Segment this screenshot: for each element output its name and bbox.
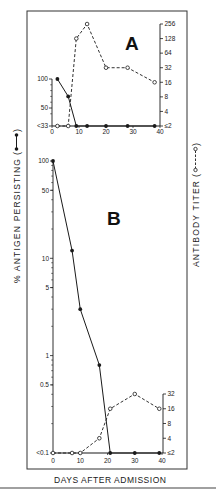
y-left-tick-label: <33	[37, 122, 48, 129]
x-tick-label: 0	[50, 128, 54, 135]
y-right-tick-label: 8	[165, 93, 169, 100]
antibody-point	[133, 392, 137, 396]
antibody-point	[126, 66, 130, 70]
x-tick-label: 40	[158, 457, 166, 464]
antigen-point	[108, 451, 112, 455]
antigen-point	[51, 159, 55, 163]
antigen-point	[126, 124, 130, 128]
y-left-title-group: % ANTIGEN PERSISTING ( )	[12, 129, 22, 283]
antigen-point	[56, 77, 60, 81]
paren-close: )	[191, 143, 201, 146]
paren-close: )	[12, 129, 22, 132]
antibody-point	[98, 436, 102, 440]
y-left-tick-label: 1	[45, 352, 49, 359]
antigen-point	[78, 307, 82, 311]
y-right-tick-label: 32	[168, 390, 176, 397]
paren-open: (	[12, 152, 22, 155]
antigen-point	[74, 124, 78, 128]
y-left-tick-label: <0.1	[36, 449, 49, 456]
y-right-title: ANTIBODY TITER	[191, 181, 201, 267]
y-right-tick-label: 256	[165, 20, 176, 27]
x-tick-label: 0	[51, 457, 55, 464]
antibody-point	[108, 407, 112, 411]
y-right-tick-label: 8	[168, 420, 172, 427]
antibody-point	[78, 451, 82, 455]
y-right-tick-label: 4	[165, 108, 169, 115]
y-right-tick-label: 16	[168, 405, 176, 412]
y-right-tick-label: ≤2	[165, 122, 173, 129]
y-right-tick-label: 32	[165, 64, 173, 71]
y-right-tick-label: 128	[165, 35, 176, 42]
panel-a-label: A	[125, 33, 139, 54]
antibody-point	[66, 124, 70, 128]
antibody-point	[153, 80, 157, 84]
y-right-tick-label: 64	[165, 49, 173, 56]
x-tick-label: 20	[102, 128, 110, 135]
x-tick-label: 10	[77, 457, 85, 464]
antibody-point	[85, 22, 89, 26]
y-right-tick-label: 4	[168, 435, 172, 442]
x-tick-label: 10	[75, 128, 83, 135]
antigen-point	[66, 95, 70, 99]
antigen-point	[85, 124, 89, 128]
figure: % ANTIGEN PERSISTING ( ) ANTIBODY TITER …	[0, 0, 216, 491]
antibody-point	[104, 66, 108, 70]
antigen-point	[153, 124, 157, 128]
background	[0, 0, 216, 491]
y-right-tick-label: 16	[165, 79, 173, 86]
y-left-tick-label: 100	[37, 75, 48, 82]
antibody-point	[70, 451, 74, 455]
antibody-point	[157, 407, 161, 411]
antibody-point	[56, 124, 60, 128]
antigen-point	[104, 124, 108, 128]
antigen-point	[157, 451, 161, 455]
x-tick-label: 30	[131, 457, 139, 464]
antigen-point	[97, 363, 101, 367]
antibody-point	[75, 37, 79, 41]
paren-open: (	[191, 174, 201, 177]
antibody-point	[51, 451, 55, 455]
y-left-tick-label: 50	[41, 104, 49, 111]
x-tick-label: 30	[129, 128, 137, 135]
antigen-point	[133, 451, 137, 455]
y-right-tick-label: ≤2	[168, 449, 176, 456]
y-left-tick-label: 50	[42, 187, 50, 194]
antigen-point	[70, 249, 74, 253]
y-left-tick-label: 10	[42, 255, 50, 262]
y-left-tick-label: 0.5	[40, 381, 49, 388]
x-tick-label: 20	[104, 457, 112, 464]
x-axis-title: DAYS AFTER ADMISSION	[54, 475, 166, 485]
x-tick-label: 40	[156, 128, 164, 135]
y-left-tick-label: 5	[45, 284, 49, 291]
panel-b-label: B	[107, 208, 121, 229]
y-left-tick-label: 100	[38, 157, 49, 164]
